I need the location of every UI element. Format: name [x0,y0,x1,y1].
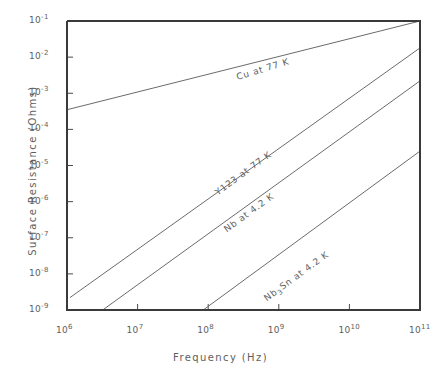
x-axis-title: Frequency (Hz) [0,352,441,363]
x-tick-label: 109 [268,325,285,335]
y-axis-title: Surface Resistance (Ohms) [27,71,38,271]
series-line-nb-at-4-2-k [103,81,420,310]
series-line-cu-at-77-k [67,21,420,110]
x-tick-label: 1011 [409,325,431,335]
y-tick-label: 10-9 [29,304,49,314]
x-tick-label: 108 [197,325,214,335]
x-tick-label: 1010 [338,325,360,335]
y-tick-label: 10-2 [29,51,49,61]
chart-figure: 1061071081091010101110-110-210-310-410-5… [0,0,441,378]
x-tick-label: 107 [127,325,144,335]
y-tick-label: 10-1 [29,15,49,25]
x-tick-label: 106 [56,325,73,335]
